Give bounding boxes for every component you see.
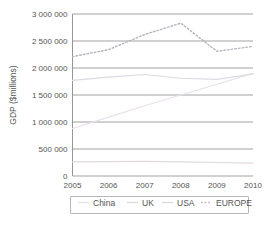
y-tick-labels: 0500 0001 000 0001 500 0002 000 0002 500… (32, 10, 68, 181)
x-tick-label: 2006 (100, 181, 118, 190)
legend-label-uk[interactable]: UK (142, 198, 154, 208)
y-axis-title: GDP ($millions) (8, 65, 18, 125)
y-tick-label: 2 500 000 (32, 37, 68, 46)
series-line-usa (73, 74, 254, 80)
legend-label-usa[interactable]: USA (177, 198, 195, 208)
series-lines (73, 23, 254, 163)
series-line-europe (73, 23, 254, 56)
legend-label-europe[interactable]: EUROPE (216, 198, 252, 208)
x-tick-label: 2008 (172, 181, 190, 190)
x-tick-label: 2005 (64, 181, 82, 190)
x-tick-label: 2009 (208, 181, 226, 190)
legend: ChinaUKUSAEUROPE (71, 197, 253, 214)
y-tick-label: 500 000 (39, 145, 68, 154)
legend-label-china[interactable]: China (93, 198, 115, 208)
chart-canvas: 0500 0001 000 0001 500 0002 000 0002 500… (0, 0, 271, 228)
y-tick-label: 1 000 000 (32, 118, 68, 127)
y-tick-label: 2 000 000 (32, 64, 68, 73)
y-tick-label: 3 000 000 (32, 10, 68, 19)
x-tick-label: 2007 (136, 181, 154, 190)
y-tick-label: 0 (63, 172, 68, 181)
series-line-uk (73, 161, 254, 163)
gridlines (73, 14, 254, 176)
x-tick-labels: 200520062007200820092010 (64, 181, 263, 190)
series-line-china (73, 73, 254, 128)
gdp-line-chart: 0500 0001 000 0001 500 0002 000 0002 500… (0, 0, 271, 228)
y-tick-label: 1 500 000 (32, 91, 68, 100)
x-tick-label: 2010 (244, 181, 262, 190)
